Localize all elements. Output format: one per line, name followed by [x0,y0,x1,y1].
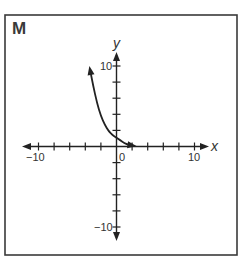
graph-panel: M x −10 0 10 y 10 −10 [0,0,243,263]
x-tick-label-max: 10 [188,151,200,163]
panel-label: M [12,19,26,38]
y-tick-label-min: −10 [94,221,113,233]
y-tick-label-max: 10 [100,60,112,72]
y-axis-label: y [112,35,121,51]
graph-frame [5,15,237,255]
x-tick-label-origin: 0 [119,151,125,163]
x-axis-label: x [210,138,219,154]
x-tick-label-min: −10 [26,151,45,163]
